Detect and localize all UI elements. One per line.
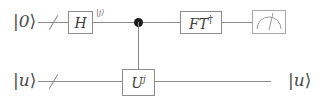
hadamard-gate[interactable]: H [68,11,93,34]
control-connection-line [138,22,139,70]
measurement-gate[interactable] [252,10,286,34]
control-register-wire-segment-ft-to-meter [222,22,252,23]
control-register-wire-segment-control-to-ft [138,22,180,23]
control-register-input-label: |0⟩ [13,13,36,30]
annotation-ket-angle: ⟩ [101,8,104,17]
hadamard-gate-label: H [74,16,86,30]
controlled-u-gate-label: Uj [131,75,146,90]
target-register-input-label: |u⟩ [13,72,36,89]
dagger-icon: † [208,14,213,25]
ket-symbol: u [294,70,305,90]
ket-angle-right: ⟩ [305,70,312,90]
inverse-fourier-transform-gate-label: FT† [189,15,213,31]
ket-symbol: u [19,70,30,90]
target-register-wire-segment-input [38,81,122,82]
control-register-wire-segment-h-to-control [93,22,139,23]
quantum-circuit-diagram: |0⟩ H |j⟩ FT† |u⟩ Uj |u⟩ [0,0,325,105]
target-register-wire-segment-output [155,81,271,82]
target-register-output-label: |u⟩ [288,72,311,89]
ft-base: FT [189,15,208,31]
ket-symbol: 0 [19,11,30,31]
u-base: U [131,75,143,91]
meter-gauge-icon [253,11,285,33]
ket-angle-right: ⟩ [30,11,37,31]
inverse-fourier-transform-gate[interactable]: FT† [180,11,222,34]
state-after-hadamard-label: |j⟩ [96,9,104,17]
u-exponent: j [143,74,146,84]
controlled-u-gate[interactable]: Uj [122,69,155,96]
ket-angle-right: ⟩ [30,70,37,90]
